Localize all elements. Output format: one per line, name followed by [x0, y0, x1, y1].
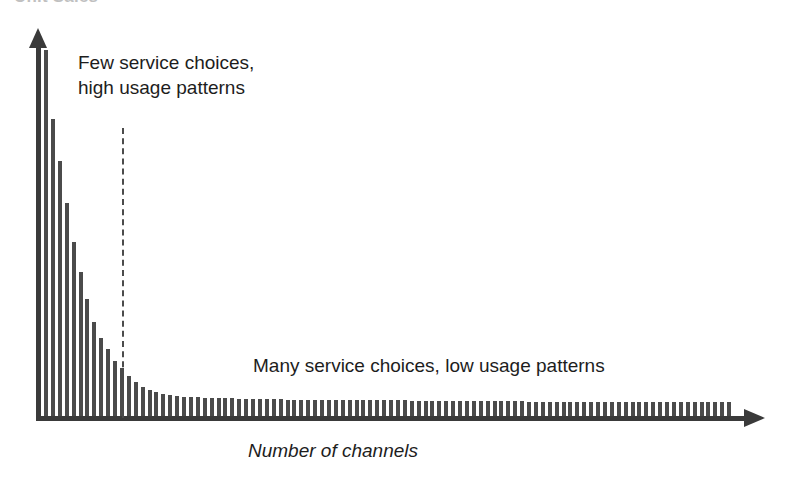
annotation-few-service-choices: Few service choices, high usage patterns	[78, 50, 254, 100]
bar	[127, 376, 131, 418]
bar	[58, 161, 62, 418]
bar	[161, 394, 165, 418]
bar	[189, 397, 193, 418]
bar	[175, 396, 179, 418]
x-axis-label: Number of channels	[248, 440, 418, 462]
bar	[148, 390, 152, 418]
annotation-many-service-choices: Many service choices, low usage patterns	[253, 355, 605, 377]
bar	[217, 398, 221, 418]
arrow-up-icon	[29, 28, 47, 48]
y-axis-line	[36, 44, 41, 420]
bar	[196, 397, 200, 418]
bar	[99, 338, 103, 419]
bar	[210, 398, 214, 418]
bar	[168, 395, 172, 418]
bar	[154, 392, 158, 418]
x-axis-line	[36, 416, 750, 421]
bar	[203, 398, 207, 418]
plot-area: Few service choices, high usage patterns…	[0, 0, 795, 478]
bar	[106, 349, 110, 418]
bar	[182, 397, 186, 418]
bar	[92, 322, 96, 418]
bar	[134, 382, 138, 418]
bar	[72, 242, 76, 418]
bar	[79, 272, 83, 418]
bar	[44, 50, 48, 418]
long-tail-chart-figure: Unit Sales Few service choices, high usa…	[0, 0, 795, 478]
bar	[65, 203, 69, 418]
bar	[85, 299, 89, 418]
bar	[51, 119, 55, 418]
head-tail-divider	[122, 128, 124, 418]
bar	[141, 387, 145, 418]
arrow-right-icon	[744, 409, 765, 427]
bar	[113, 361, 117, 419]
